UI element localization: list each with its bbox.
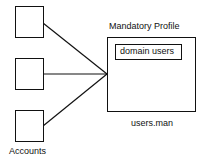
- accounts-label: Accounts: [9, 146, 46, 156]
- profile-file-label: users.man: [131, 118, 173, 128]
- profile-title: Mandatory Profile: [109, 21, 180, 31]
- connector-line-1: [43, 23, 107, 74]
- account-box-2: [15, 58, 44, 90]
- connector-line-3: [43, 74, 107, 126]
- account-box-3: [15, 110, 44, 142]
- account-box-1: [15, 6, 44, 38]
- domain-users-label: domain users: [120, 46, 174, 56]
